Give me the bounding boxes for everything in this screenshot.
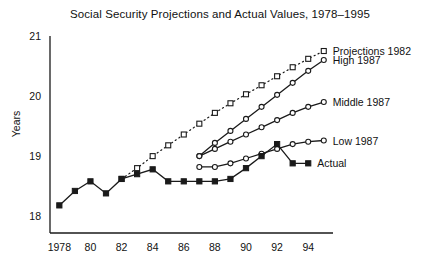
data-point-marker [228,176,233,181]
y-tick-label: 18 [29,210,41,222]
data-point-marker [150,154,155,159]
data-point-marker [181,179,186,184]
y-tick-label: 20 [29,90,41,102]
data-point-marker [244,116,249,121]
data-point-marker [197,164,202,169]
data-point-marker [228,101,233,106]
data-point-marker [306,56,311,61]
y-tick-label: 21 [29,30,41,42]
data-point-marker [228,161,233,166]
data-point-marker [259,154,264,159]
data-point-marker [212,110,217,115]
data-point-marker [150,167,155,172]
x-tick-label: 92 [271,241,283,253]
data-point-marker [275,92,280,97]
chart-plot: 18192021 19788082848688909294 Projection… [0,0,440,272]
data-point-marker [321,100,326,105]
series-actual [57,142,311,208]
data-point-marker [166,143,171,148]
data-point-marker [244,92,249,97]
data-series-group [57,49,327,208]
x-axis-tick-labels: 19788082848688909294 [48,241,315,253]
data-point-marker [135,172,140,177]
series-label-high-1987: High 1987 [333,54,381,66]
series-label-actual: Actual [317,157,346,169]
series-inline-labels: Projections 1982High 1987Middle 1987Low … [317,45,411,169]
data-point-marker [103,191,108,196]
data-point-marker [275,118,280,123]
data-point-marker [290,142,295,147]
data-point-marker [119,176,124,181]
data-point-marker [306,68,311,73]
data-point-marker [57,203,62,208]
chart-container: Social Security Projections and Actual V… [0,0,440,272]
data-point-marker [135,166,140,171]
x-tick-label: 84 [147,241,159,253]
data-point-marker [197,121,202,126]
data-point-marker [259,83,264,88]
data-point-marker [244,132,249,137]
data-point-marker [197,154,202,159]
series-label-middle-1987: Middle 1987 [333,96,390,108]
data-point-marker [212,146,217,151]
data-point-marker [244,156,249,161]
data-point-marker [275,142,280,147]
y-axis-tick-labels: 18192021 [29,30,41,222]
data-point-marker [306,104,311,109]
data-point-marker [290,161,295,166]
data-point-marker [321,49,326,54]
series-line [59,144,308,205]
data-point-marker [306,139,311,144]
data-point-marker [290,80,295,85]
data-point-marker [228,128,233,133]
data-point-marker [228,139,233,144]
data-point-marker [166,179,171,184]
x-tick-label: 90 [240,241,252,253]
x-tick-label: 88 [209,241,221,253]
data-point-marker [290,110,295,115]
x-tick-label: 82 [116,241,128,253]
data-point-marker [197,179,202,184]
data-point-marker [290,65,295,70]
data-point-marker [306,161,311,166]
data-point-marker [321,138,326,143]
data-point-marker [212,164,217,169]
data-point-marker [212,179,217,184]
x-tick-label: 94 [302,241,314,253]
data-point-marker [243,166,248,171]
data-point-marker [88,179,93,184]
data-point-marker [72,188,77,193]
y-tick-label: 19 [29,150,41,162]
x-tick-label: 86 [178,241,190,253]
data-point-marker [259,125,264,130]
series-label-low-1987: Low 1987 [333,135,379,147]
data-point-marker [321,58,326,63]
data-point-marker [259,104,264,109]
data-point-marker [275,74,280,79]
x-tick-label: 80 [85,241,97,253]
x-tick-label: 1978 [48,241,72,253]
data-point-marker [181,132,186,137]
data-point-marker [212,140,217,145]
